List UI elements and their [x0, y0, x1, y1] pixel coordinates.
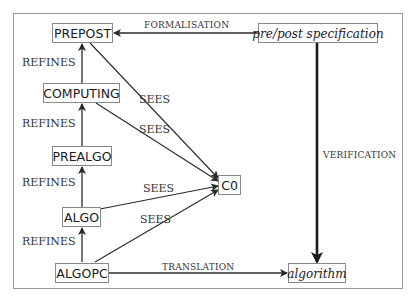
label-sees-3: SEES: [143, 182, 174, 195]
label-sees-4: SEES: [140, 213, 171, 226]
node-algo-label: ALGO: [64, 210, 99, 225]
node-computing-label: COMPUTING: [43, 86, 119, 101]
label-refines-4: REFINES: [22, 235, 75, 248]
node-c0: C0: [219, 176, 241, 195]
diagram-canvas: PREPOST COMPUTING PREALGO ALGO ALGOPC C0…: [0, 0, 412, 302]
edge-sees-computing-c0: [96, 103, 218, 181]
label-verification: VERIFICATION: [322, 150, 396, 160]
label-refines-2: REFINES: [22, 117, 75, 130]
node-prepost: PREPOST: [53, 24, 113, 43]
node-spec-label: pre/post specification: [252, 27, 383, 41]
node-prealgo: PREALGO: [52, 147, 111, 166]
node-algopc: ALGOPC: [56, 264, 109, 283]
label-sees-1: SEES: [139, 93, 170, 106]
node-computing: COMPUTING: [43, 84, 119, 103]
node-prepost-label: PREPOST: [54, 26, 111, 41]
node-algorithm-label: algorithm: [287, 267, 346, 281]
node-algorithm: algorithm: [287, 264, 346, 283]
node-prealgo-label: PREALGO: [52, 149, 111, 164]
label-refines-3: REFINES: [22, 176, 75, 189]
label-refines-1: REFINES: [22, 56, 75, 69]
label-translation: TRANSLATION: [162, 262, 234, 272]
node-c0-label: C0: [221, 178, 238, 193]
node-spec: pre/post specification: [252, 24, 383, 43]
label-formalisation: FORMALISATION: [144, 20, 229, 30]
node-algopc-label: ALGOPC: [56, 266, 108, 281]
edge-sees-algopc-c0: [95, 190, 218, 262]
node-algo: ALGO: [63, 208, 101, 227]
label-sees-2: SEES: [139, 123, 170, 136]
